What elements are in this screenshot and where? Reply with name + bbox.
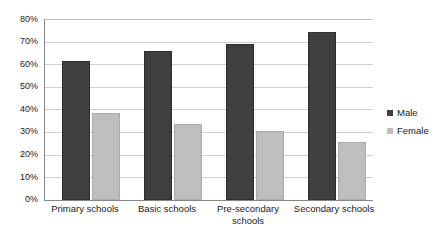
bar-group bbox=[226, 19, 290, 200]
x-axis-tick-line1: Primary schools bbox=[42, 203, 128, 215]
legend: Male Female bbox=[387, 104, 445, 140]
x-axis-tick-line2: schools bbox=[206, 215, 290, 227]
bar-male[interactable] bbox=[144, 51, 172, 200]
x-axis-tick-label: Secondary schools bbox=[288, 203, 380, 215]
y-axis-tick-label: 10% bbox=[0, 173, 38, 182]
male-color-swatch-icon bbox=[387, 110, 393, 116]
y-axis-tick-label: 50% bbox=[0, 82, 38, 91]
bar-male[interactable] bbox=[62, 61, 90, 200]
bar-female[interactable] bbox=[92, 113, 120, 200]
bar-group bbox=[308, 19, 372, 200]
bars-layer bbox=[44, 19, 372, 200]
y-axis-tick-label: 30% bbox=[0, 127, 38, 136]
y-axis: 80% 70% 60% 50% 40% 30% 20% 10% 0% bbox=[0, 0, 40, 239]
y-axis-tick-label: 60% bbox=[0, 60, 38, 69]
bar-male[interactable] bbox=[226, 44, 254, 200]
bar-female[interactable] bbox=[256, 131, 284, 200]
bar-female[interactable] bbox=[174, 124, 202, 200]
bar-group bbox=[62, 19, 126, 200]
bar-group bbox=[144, 19, 208, 200]
legend-label-male: Male bbox=[397, 108, 418, 118]
y-axis-tick-label: 20% bbox=[0, 150, 38, 159]
female-color-swatch-icon bbox=[387, 128, 393, 134]
legend-item-female[interactable]: Female bbox=[387, 122, 445, 140]
y-axis-tick-label: 0% bbox=[0, 195, 38, 204]
bar-chart: 80% 70% 60% 50% 40% 30% 20% 10% 0% bbox=[0, 0, 445, 239]
y-axis-tick-label: 70% bbox=[0, 37, 38, 46]
x-axis: Primary schools Basic schools Pre-second… bbox=[44, 203, 372, 237]
legend-item-male[interactable]: Male bbox=[387, 104, 445, 122]
x-axis-tick-label: Basic schools bbox=[126, 203, 208, 215]
bar-female[interactable] bbox=[338, 142, 366, 200]
x-axis-tick-label: Primary schools bbox=[42, 203, 128, 215]
legend-label-female: Female bbox=[397, 126, 429, 136]
y-axis-tick-label: 80% bbox=[0, 15, 38, 24]
x-axis-tick-line1: Secondary schools bbox=[288, 203, 380, 215]
x-axis-tick-line1: Pre-secondary bbox=[206, 203, 290, 215]
x-axis-tick-label: Pre-secondary schools bbox=[206, 203, 290, 227]
bar-male[interactable] bbox=[308, 32, 336, 200]
x-axis-tick-line1: Basic schools bbox=[126, 203, 208, 215]
y-axis-tick-label: 40% bbox=[0, 105, 38, 114]
